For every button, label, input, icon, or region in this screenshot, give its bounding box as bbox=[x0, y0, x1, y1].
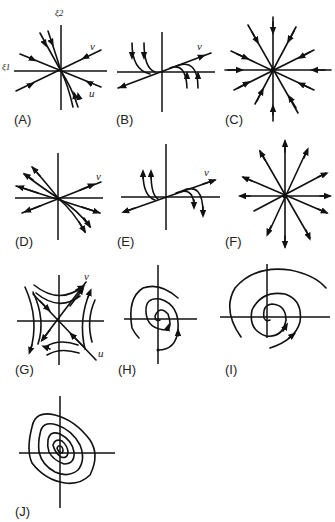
panel-label-h: (H) bbox=[118, 362, 136, 377]
panel-d-diagram bbox=[15, 153, 103, 240]
axis-label-xi1: ξ1 bbox=[2, 62, 10, 72]
panel-j-diagram bbox=[19, 396, 115, 508]
eigenvector-label-v-d: v bbox=[96, 170, 101, 182]
panel-label-e: (E) bbox=[117, 234, 134, 249]
panel-h-diagram bbox=[124, 265, 197, 364]
eigenvector-label-v-e: v bbox=[204, 166, 209, 178]
panel-label-i: (I) bbox=[225, 362, 237, 377]
axis-label-xi2: ξ2 bbox=[55, 8, 63, 18]
panel-label-j: (J) bbox=[15, 504, 30, 519]
panel-e-diagram bbox=[121, 144, 220, 230]
panel-label-b: (B) bbox=[116, 112, 133, 127]
eigenvector-label-v-b: v bbox=[197, 40, 202, 52]
panel-label-f: (F) bbox=[225, 234, 242, 249]
panel-g-diagram bbox=[17, 275, 104, 365]
eigenvector-label-v-g: v bbox=[84, 270, 89, 282]
panel-label-c: (C) bbox=[225, 112, 243, 127]
panel-f-diagram bbox=[240, 141, 330, 247]
phase-portrait-figure: ξ2 ξ1 v u v v v v u (A) (B) (C) (D) (E) … bbox=[0, 0, 335, 522]
eigenvector-label-v-a: v bbox=[90, 40, 95, 52]
eigenvector-label-u-g: u bbox=[98, 347, 104, 359]
panel-label-a: (A) bbox=[14, 112, 31, 127]
panel-i-diagram bbox=[220, 264, 330, 348]
panel-label-d: (D) bbox=[15, 234, 33, 249]
panel-label-g: (G) bbox=[15, 362, 34, 377]
panel-c-diagram bbox=[225, 17, 331, 121]
eigenvector-label-u-a: u bbox=[89, 87, 95, 99]
